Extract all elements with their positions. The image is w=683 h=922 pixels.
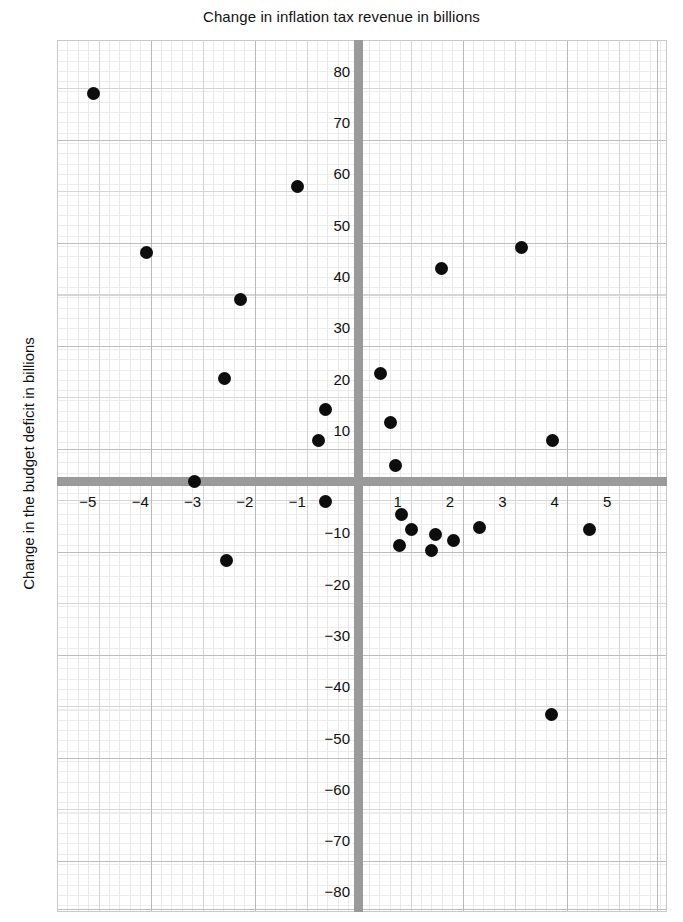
data-point	[319, 403, 332, 416]
data-point	[220, 554, 233, 567]
y-tick-label: 20	[333, 370, 350, 387]
data-point	[218, 372, 231, 385]
x-tick-label: 2	[446, 493, 454, 510]
data-point	[374, 367, 387, 380]
x-tick-label: −3	[184, 493, 201, 510]
data-point	[395, 508, 408, 521]
x-tick-label: −5	[79, 493, 96, 510]
y-tick-label: 30	[333, 319, 350, 336]
data-point	[140, 246, 153, 259]
y-tick-label: −10	[325, 524, 350, 541]
y-tick-label: −70	[325, 832, 350, 849]
data-point	[312, 434, 325, 447]
data-point	[188, 475, 201, 488]
x-tick-label: −2	[236, 493, 253, 510]
y-tick-label: 50	[333, 216, 350, 233]
data-point	[234, 293, 247, 306]
y-tick-label: 10	[333, 421, 350, 438]
y-tick-label: −30	[325, 627, 350, 644]
x-tick-label: −1	[289, 493, 306, 510]
data-point	[425, 544, 438, 557]
chart-title: Change in inflation tax revenue in billi…	[0, 8, 683, 25]
data-point	[384, 416, 397, 429]
y-tick-label: −80	[325, 883, 350, 900]
y-tick-label: −20	[325, 575, 350, 592]
y-tick-label: 60	[333, 165, 350, 182]
data-point	[291, 180, 304, 193]
y-tick-label: −40	[325, 678, 350, 695]
y-tick-label: 70	[333, 114, 350, 131]
x-tick-label: 5	[603, 493, 611, 510]
x-tick-label: −4	[132, 493, 149, 510]
y-tick-label: −50	[325, 729, 350, 746]
y-tick-label: 40	[333, 267, 350, 284]
data-point	[546, 434, 559, 447]
y-axis-title: Change in the budget deficit in billions	[20, 254, 37, 674]
x-tick-label: 4	[551, 493, 559, 510]
scatter-chart-figure: Change in inflation tax revenue in billi…	[0, 0, 683, 922]
data-point	[473, 521, 486, 534]
x-axis-line	[57, 477, 667, 486]
x-tick-label: 3	[498, 493, 506, 510]
y-tick-label: 80	[333, 62, 350, 79]
plot-area: 8070605040302010−10−20−30−40−50−60−70−80…	[57, 40, 667, 912]
data-point	[447, 534, 460, 547]
y-tick-label: −60	[325, 780, 350, 797]
